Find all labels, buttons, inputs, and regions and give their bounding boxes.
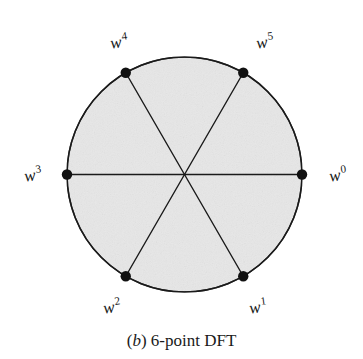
- vertex-dot-w0[interactable]: [297, 169, 307, 179]
- vertex-label-w5: w5: [255, 32, 275, 51]
- vertex-dot-w5[interactable]: [238, 68, 248, 78]
- dft-unit-circle-diagram: [0, 0, 363, 359]
- vertex-label-w4: w4: [109, 32, 129, 51]
- figure-page: w0w1w2w3w4w5 (b) 6-point DFT: [0, 0, 363, 359]
- vertex-label-w1: w1: [248, 297, 268, 316]
- figure-caption: (b) 6-point DFT: [0, 330, 363, 352]
- vertex-dot-w1[interactable]: [238, 271, 248, 281]
- caption-text: 6-point DFT: [151, 331, 236, 350]
- caption-close-paren: ): [141, 331, 147, 350]
- caption-letter: b: [132, 331, 141, 350]
- vertex-dot-w4[interactable]: [121, 68, 131, 78]
- vertex-label-w3: w3: [23, 165, 43, 184]
- vertex-dot-w3[interactable]: [62, 169, 72, 179]
- vertex-label-w0: w0: [328, 165, 348, 184]
- vertex-dot-w2[interactable]: [121, 271, 131, 281]
- vertex-label-w2: w2: [102, 297, 122, 316]
